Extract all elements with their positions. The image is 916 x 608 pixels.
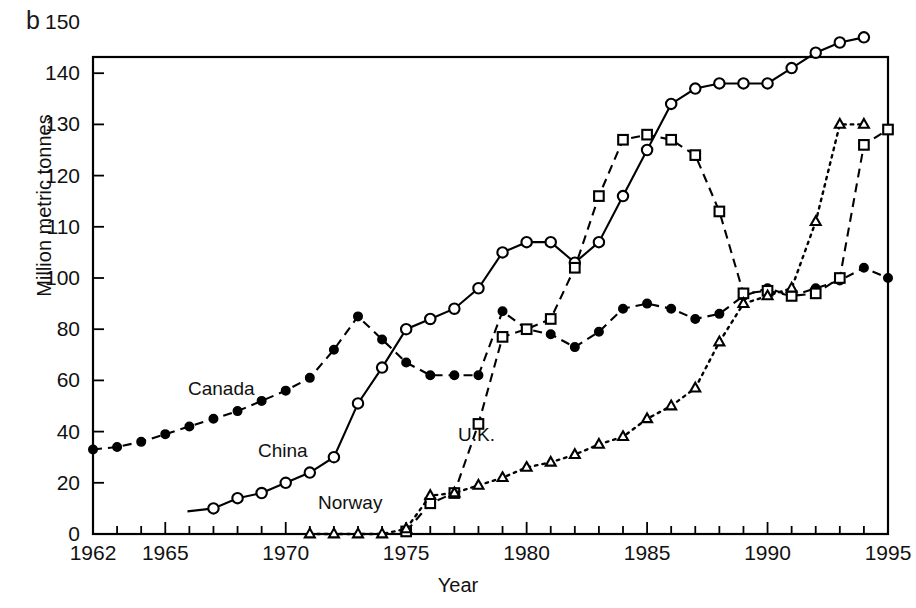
- marker-china: [256, 488, 266, 498]
- marker-norway: [859, 119, 869, 128]
- marker-norway: [618, 431, 628, 440]
- marker-norway: [714, 337, 724, 346]
- marker-canada: [547, 330, 555, 338]
- marker-canada: [89, 445, 97, 453]
- marker-norway: [305, 529, 315, 538]
- marker-norway: [353, 529, 363, 538]
- marker-canada: [306, 374, 314, 382]
- marker-china: [811, 48, 821, 58]
- marker-canada: [667, 305, 675, 313]
- figure-panel-b: b Million metric tonnes Year 15014013012…: [0, 0, 916, 608]
- plot-canvas: [0, 0, 916, 608]
- marker-china: [714, 78, 724, 88]
- marker-canada: [185, 422, 193, 430]
- marker-norway: [473, 480, 483, 489]
- marker-norway: [690, 383, 700, 392]
- marker-canada: [643, 299, 651, 307]
- marker-china: [497, 247, 507, 257]
- marker-canada: [619, 305, 627, 313]
- marker-china: [401, 324, 411, 334]
- marker-norway: [594, 439, 604, 448]
- marker-canada: [691, 315, 699, 323]
- marker-uk: [522, 324, 532, 334]
- marker-canada: [450, 371, 458, 379]
- marker-canada: [257, 397, 265, 405]
- marker-norway: [377, 529, 387, 538]
- marker-canada: [378, 335, 386, 343]
- marker-canada: [715, 310, 723, 318]
- marker-canada: [209, 415, 217, 423]
- marker-china: [835, 37, 845, 47]
- marker-uk: [546, 314, 556, 324]
- marker-canada: [498, 307, 506, 315]
- marker-china: [521, 237, 531, 247]
- marker-uk: [642, 130, 652, 140]
- marker-china: [546, 237, 556, 247]
- marker-uk: [883, 125, 893, 135]
- marker-china: [690, 83, 700, 93]
- marker-norway: [329, 529, 339, 538]
- marker-canada: [571, 343, 579, 351]
- marker-canada: [113, 443, 121, 451]
- marker-canada: [354, 312, 362, 320]
- marker-norway: [570, 449, 580, 458]
- marker-canada: [595, 328, 603, 336]
- marker-china: [232, 493, 242, 503]
- marker-uk: [666, 135, 676, 145]
- series-line-uk: [406, 130, 888, 532]
- marker-canada: [402, 358, 410, 366]
- marker-china: [473, 283, 483, 293]
- marker-canada: [282, 386, 290, 394]
- marker-norway: [425, 490, 435, 499]
- marker-china: [738, 78, 748, 88]
- marker-china: [786, 63, 796, 73]
- marker-uk: [835, 273, 845, 283]
- marker-uk: [474, 419, 484, 429]
- marker-china: [353, 398, 363, 408]
- marker-norway: [811, 216, 821, 225]
- marker-canada: [233, 407, 241, 415]
- marker-canada: [137, 438, 145, 446]
- marker-uk: [859, 140, 869, 150]
- marker-norway: [642, 413, 652, 422]
- marker-uk: [594, 191, 604, 201]
- marker-china: [329, 452, 339, 462]
- marker-china: [666, 99, 676, 109]
- marker-canada: [330, 345, 338, 353]
- marker-uk: [498, 332, 508, 342]
- marker-china: [762, 78, 772, 88]
- marker-norway: [498, 472, 508, 481]
- marker-norway: [835, 119, 845, 128]
- marker-uk: [570, 263, 580, 273]
- marker-china: [208, 503, 218, 513]
- marker-china: [859, 32, 869, 42]
- marker-uk: [811, 289, 821, 299]
- marker-china: [594, 237, 604, 247]
- marker-norway: [666, 401, 676, 410]
- marker-china: [281, 478, 291, 488]
- marker-china: [425, 314, 435, 324]
- marker-canada: [474, 371, 482, 379]
- marker-canada: [860, 264, 868, 272]
- marker-uk: [690, 150, 700, 160]
- marker-china: [377, 362, 387, 372]
- marker-china: [618, 191, 628, 201]
- series-line-norway: [310, 124, 864, 534]
- marker-norway: [787, 283, 797, 292]
- marker-norway: [522, 462, 532, 471]
- marker-uk: [715, 207, 725, 217]
- marker-canada: [884, 274, 892, 282]
- marker-china: [305, 467, 315, 477]
- marker-norway: [546, 457, 556, 466]
- marker-china: [449, 304, 459, 314]
- marker-canada: [161, 430, 169, 438]
- marker-norway: [401, 523, 411, 532]
- series-line-china: [187, 37, 863, 511]
- marker-canada: [426, 371, 434, 379]
- marker-china: [642, 145, 652, 155]
- marker-uk: [618, 135, 628, 145]
